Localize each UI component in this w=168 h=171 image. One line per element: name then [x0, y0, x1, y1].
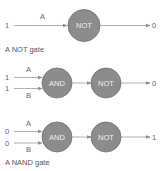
nand-gate-diagram: 0 A 0 B AND NOT 1 A NAND gate — [5, 119, 156, 167]
and-gate-label: AND — [49, 133, 65, 142]
not-gate-label: NOT — [98, 79, 114, 88]
caption-nand-gate: A NAND gate — [5, 158, 50, 167]
input-a-label: A — [26, 65, 31, 74]
input-a-value: 0 — [5, 127, 9, 136]
input-a-label: A — [26, 119, 31, 128]
caption-not-gate: A NOT gate — [5, 45, 44, 54]
not-gate-label: NOT — [76, 21, 92, 30]
input-b-value: 1 — [5, 84, 9, 93]
and-not-diagram: 1 A 1 B AND NOT 0 — [5, 65, 156, 100]
output-value: 0 — [152, 21, 156, 30]
input-a-label: A — [40, 12, 45, 21]
input-b-value: 0 — [5, 139, 9, 148]
not-gate-label: NOT — [98, 133, 114, 142]
and-gate-label: AND — [49, 79, 65, 88]
input-a-value: 1 — [5, 73, 9, 82]
logic-gates-diagram: 1 A NOT 0 A NOT gate 1 A 1 B AND NOT 0 0… — [0, 0, 168, 171]
input-a-value: 1 — [5, 21, 9, 30]
not-gate-diagram: 1 A NOT 0 A NOT gate — [5, 10, 156, 55]
input-b-label: B — [26, 91, 31, 100]
input-b-label: B — [26, 145, 31, 154]
output-value: 1 — [152, 133, 156, 142]
output-value: 0 — [152, 79, 156, 88]
